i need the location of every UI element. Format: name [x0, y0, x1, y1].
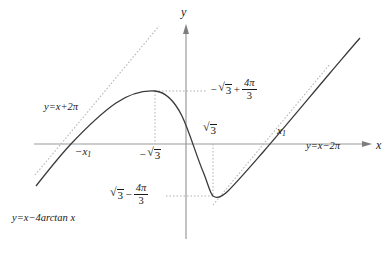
math-figure: y x y=x+2π y=x−2π y=x−4arctan x −x1 −√3 …: [0, 0, 390, 261]
tick-neg-x1-base: −x: [75, 145, 87, 157]
function-curve: [36, 38, 360, 197]
local-max-value-label: −√3+4π3: [209, 78, 257, 101]
min-fraction-denominator: 3: [136, 195, 145, 206]
max-radicand: 3: [225, 84, 233, 97]
max-operator: +: [232, 84, 241, 95]
max-fraction-numerator: 4π: [242, 78, 257, 90]
local-min-value-label: √3−4π3: [110, 183, 149, 206]
max-fraction-denominator: 3: [245, 90, 254, 101]
radical-sign-max: √3: [218, 82, 232, 96]
tick-label-neg-sqrt3: −√3: [138, 147, 161, 161]
tick-pos-x1-subscript: 1: [282, 129, 286, 138]
max-leading-minus: −: [209, 84, 218, 95]
y-axis-label: y: [181, 6, 186, 18]
tick-pos-sqrt3-radicand: 3: [210, 124, 218, 137]
min-fraction-numerator: 4π: [134, 183, 149, 195]
asymptote-left-label: y=x+2π: [44, 102, 78, 113]
radical-sign-pos-sqrt3: √3: [203, 122, 217, 136]
radical-sign-min: √3: [110, 187, 124, 201]
min-operator: −: [124, 189, 133, 200]
min-radicand: 3: [117, 189, 125, 202]
tick-neg-sqrt3-minus: −: [138, 149, 147, 160]
max-fraction: 4π3: [242, 78, 257, 101]
tick-label-pos-sqrt3: √3: [203, 122, 217, 136]
curve-equation-label: y=x−4arctan x: [12, 213, 75, 224]
tick-label-neg-x1: −x1: [75, 146, 91, 159]
min-fraction: 4π3: [134, 183, 149, 206]
tick-neg-x1-subscript: 1: [87, 150, 91, 159]
radical-sign-neg-sqrt3: √3: [147, 147, 161, 161]
asymptote-left-line: [61, 26, 159, 144]
x-axis-label: x: [376, 139, 381, 151]
tick-label-pos-x1: x1: [277, 125, 286, 138]
tick-neg-sqrt3-radicand: 3: [154, 149, 162, 162]
asymptote-right-label: y=x−2π: [306, 141, 340, 152]
